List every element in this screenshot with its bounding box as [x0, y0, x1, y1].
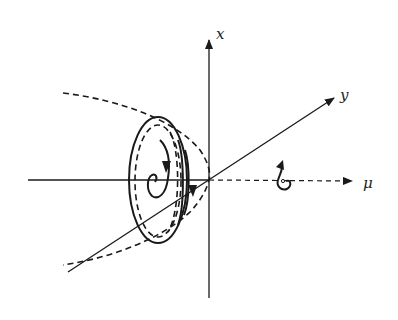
bifurcation-diagram: μ x y: [0, 0, 398, 320]
y-axis-line: [68, 98, 334, 272]
unstable-focus-spiral: [276, 160, 290, 189]
mu-axis: μ: [28, 174, 373, 192]
spiral-up-arrow-icon: [276, 160, 284, 170]
mu-axis-positive: [209, 180, 352, 181]
x-axis-label: x: [216, 25, 225, 43]
x-axis: x: [209, 25, 225, 298]
mu-axis-label: μ: [363, 174, 373, 192]
y-axis-label: y: [339, 86, 349, 104]
fixed-point-marker: [281, 179, 284, 182]
